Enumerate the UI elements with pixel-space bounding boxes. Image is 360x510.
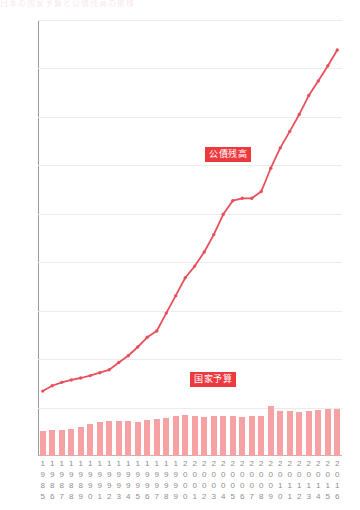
x-tick-label: 1997 (152, 458, 161, 502)
x-tick-label: 2012 (295, 458, 304, 502)
cropped-caption: 日本の国家予算と公債残高の推移 (0, 0, 360, 7)
x-tick-label: 1993 (114, 458, 123, 502)
line-marker (117, 361, 120, 364)
x-tick-label: 2004 (219, 458, 228, 502)
x-tick-label: 1987 (57, 458, 66, 502)
x-tick-label: 2010 (276, 458, 285, 502)
line-marker (60, 381, 63, 384)
x-tick-label: 2011 (285, 458, 294, 502)
x-tick-label: 2014 (314, 458, 323, 502)
line-marker (307, 94, 310, 97)
line-marker (51, 384, 54, 387)
x-tick-label: 1996 (143, 458, 152, 502)
chart-figure: 日本の国家予算と公債残高の推移 900800700600500400300200… (0, 0, 360, 510)
line-marker (79, 376, 82, 379)
x-tick-label: 1998 (162, 458, 171, 502)
x-tick-label: 2003 (209, 458, 218, 502)
line-marker (317, 79, 320, 82)
x-tick-label: 1994 (124, 458, 133, 502)
line-marker (222, 213, 225, 216)
line-marker (193, 264, 196, 267)
x-tick-label: 2006 (238, 458, 247, 502)
line-marker (241, 197, 244, 200)
annotation-bond-balance: 公債残高 (205, 147, 251, 162)
x-tick-label: 2008 (257, 458, 266, 502)
line-marker (174, 294, 177, 297)
x-tick-label: 1988 (67, 458, 76, 502)
line-marker (326, 64, 329, 67)
plot-area: 900800700600500400300200100(兆円) (38, 20, 342, 456)
x-tick-label: 1991 (95, 458, 104, 502)
line-path (43, 50, 338, 391)
x-tick-label: 1995 (133, 458, 142, 502)
line-marker (136, 345, 139, 348)
annotation-national-budget: 国家予算 (190, 372, 236, 387)
x-tick-label: 1985 (38, 458, 47, 502)
line-marker (279, 146, 282, 149)
x-tick-label: 1986 (48, 458, 57, 502)
line-marker (288, 130, 291, 133)
line-marker (108, 368, 111, 371)
line-marker (231, 199, 234, 202)
line-marker (41, 389, 44, 392)
line-marker (146, 336, 149, 339)
line-marker (203, 250, 206, 253)
x-tick-label: 2009 (266, 458, 275, 502)
x-tick-label: 2016 (333, 458, 342, 502)
line-marker (260, 190, 263, 193)
x-tick-label: 1989 (76, 458, 85, 502)
x-tick-label: 1992 (105, 458, 114, 502)
line-marker (165, 311, 168, 314)
x-tick-label: 2002 (200, 458, 209, 502)
x-tick-label: 2007 (247, 458, 256, 502)
line-marker (127, 354, 130, 357)
x-tick-label: 2001 (190, 458, 199, 502)
x-tick-label: 1990 (86, 458, 95, 502)
line-marker (184, 276, 187, 279)
x-tick-label: 2000 (181, 458, 190, 502)
line-marker (70, 378, 73, 381)
x-tick-label: 1999 (171, 458, 180, 502)
line-series-bond-balance (38, 20, 342, 456)
line-marker (89, 374, 92, 377)
line-marker (298, 113, 301, 116)
line-marker (212, 233, 215, 236)
line-marker (336, 48, 339, 51)
x-axis-labels: 1985198619871988198919901991199219931994… (38, 458, 342, 506)
line-marker (98, 371, 101, 374)
x-tick-label: 2015 (323, 458, 332, 502)
line-marker (250, 197, 253, 200)
x-tick-label: 2013 (304, 458, 313, 502)
line-marker (269, 167, 272, 170)
x-tick-label: 2005 (228, 458, 237, 502)
line-marker (155, 329, 158, 332)
